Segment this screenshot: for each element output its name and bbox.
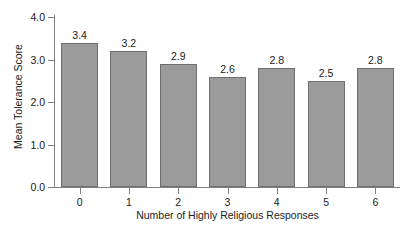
bar-value-label: 3.4 [60,29,100,41]
bar-value-label: 2.8 [355,54,395,66]
bar-value-label: 2.6 [208,63,248,75]
x-tick-mark [80,188,81,194]
x-tick-label: 1 [114,196,144,208]
x-tick-label: 5 [311,196,341,208]
y-tick-label: 0.0 [20,182,45,192]
x-tick-label: 4 [262,196,292,208]
x-tick-mark [326,188,327,194]
y-tick-mark [48,187,55,188]
x-axis-label: Number of Highly Religious Responses [55,209,400,221]
bar [209,77,246,188]
x-tick-label: 0 [65,196,95,208]
y-tick-mark [48,60,55,61]
y-tick-mark [48,17,55,18]
bar-value-label: 3.2 [109,37,149,49]
x-tick-mark [277,188,278,194]
x-tick-label: 2 [163,196,193,208]
y-tick-label: 2.0 [20,97,45,107]
y-tick-label: 4.0 [20,12,45,22]
bar [258,68,295,187]
bar [61,43,98,188]
bar-chart: Mean Tolerance Score 0.01.02.03.04.0 3.4… [0,0,406,233]
bar [110,51,147,187]
x-tick-label: 3 [213,196,243,208]
bar-value-label: 2.9 [158,50,198,62]
bar-value-label: 2.8 [257,54,297,66]
y-tick-label: 3.0 [20,55,45,65]
bar [308,81,345,187]
x-tick-mark [178,188,179,194]
y-tick-label: 1.0 [20,140,45,150]
x-tick-mark [228,188,229,194]
x-axis-line [48,187,400,188]
bar-value-label: 2.5 [306,67,346,79]
x-tick-label: 6 [360,196,390,208]
bar [357,68,394,187]
x-tick-mark [129,188,130,194]
y-tick-mark [48,102,55,103]
y-tick-mark [48,145,55,146]
bar [160,64,197,187]
x-tick-mark [375,188,376,194]
